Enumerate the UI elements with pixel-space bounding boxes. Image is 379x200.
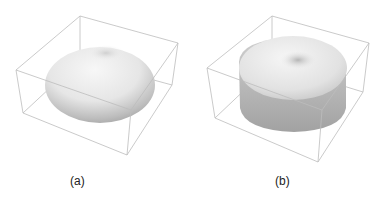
panel-b-label: (b) bbox=[275, 174, 290, 188]
panel-a bbox=[16, 16, 178, 155]
surface-a bbox=[45, 45, 155, 123]
surface-b bbox=[239, 36, 347, 132]
panel-b bbox=[207, 16, 369, 162]
panel-a-label: (a) bbox=[70, 174, 85, 188]
figure-canvas bbox=[0, 0, 379, 200]
